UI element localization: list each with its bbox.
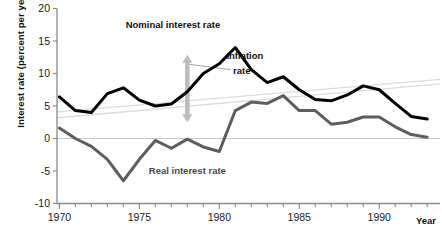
- y-axis-tick-labels: 20151050-5-10: [35, 2, 50, 209]
- y-axis-title: Interest rate (percent per year): [15, 0, 26, 148]
- x-tick-label: 1980: [208, 211, 232, 223]
- faint-trend-lower: [58, 84, 440, 118]
- nominal-series-label: Nominal interest rate: [126, 19, 221, 30]
- x-tick-label: 1990: [368, 211, 392, 223]
- y-tick-label: 20: [38, 2, 50, 14]
- y-tick-label: 15: [38, 35, 50, 47]
- y-tick-label: 5: [44, 100, 50, 112]
- arrow-head-down: [182, 114, 192, 122]
- inflation-rate-label-line1: Inflation: [226, 50, 263, 61]
- chart-plot-area: 20151050-5-10 19701975198019851990 Nomin…: [0, 0, 442, 229]
- x-axis-tick-labels: 19701975198019851990: [48, 211, 391, 223]
- x-axis-title: Year: [416, 215, 436, 226]
- y-tick-label: -10: [35, 197, 50, 209]
- faint-trend-lines: [58, 79, 440, 117]
- x-tick-label: 1975: [128, 211, 152, 223]
- y-tick-label: -5: [41, 165, 50, 177]
- inflation-rate-label-line2: rate: [233, 65, 250, 76]
- x-tick-label: 1970: [48, 211, 72, 223]
- real-series-label: Real interest rate: [149, 165, 226, 176]
- y-tick-label: 0: [44, 132, 50, 144]
- arrow-head-up: [182, 55, 192, 63]
- x-tick-label: 1985: [288, 211, 312, 223]
- interest-rate-chart: Interest rate (percent per year) 2015105…: [0, 0, 442, 229]
- chart-axes: [53, 9, 440, 210]
- faint-trend-upper: [58, 79, 440, 112]
- y-tick-label: 10: [38, 67, 50, 79]
